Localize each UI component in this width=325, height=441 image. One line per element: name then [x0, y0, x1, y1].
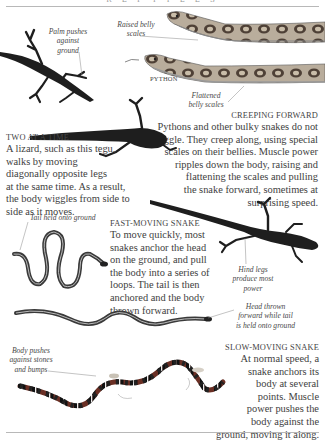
heading-fast-moving-snake: Fast-moving snake	[110, 218, 240, 229]
section-two-at-a-time: Two at a time A lizard, such as this teg…	[6, 132, 156, 219]
flattened-belly-leader-line	[228, 84, 248, 104]
thrown-snake-illustration	[14, 305, 214, 335]
caption-head-thrown: Head thrown forward while tail is held o…	[228, 302, 303, 330]
bottom-rule	[6, 432, 319, 433]
section-fast-moving-snake: Fast-moving snake To move quickly, most …	[110, 218, 240, 317]
palm-leader-line	[78, 52, 84, 78]
heading-two-at-a-time: Two at a time	[6, 132, 156, 143]
caption-tail-held: Tail held onto ground	[30, 213, 95, 222]
caption-flattened-belly: Flattened belly scales	[180, 91, 232, 110]
body-two-at-a-time: A lizard, such as this tegu, walks by mo…	[6, 143, 156, 219]
raised-belly-leader-line	[140, 36, 200, 44]
body-fast-moving-snake: To move quickly, most snakes anchor the …	[110, 229, 240, 317]
page-header: R E P T I L E S	[0, 0, 325, 4]
looping-snake-illustration	[10, 228, 110, 298]
coral-snake-illustration	[18, 352, 223, 422]
caption-palm-pushes: Palm pushes against ground	[46, 27, 90, 55]
label-python: Python	[150, 73, 178, 84]
top-rule	[6, 6, 319, 7]
hind-legs-leader-line	[244, 238, 248, 266]
